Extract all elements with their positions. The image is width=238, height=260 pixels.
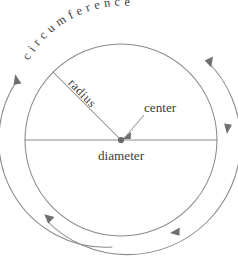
label-radius: radius — [65, 76, 99, 111]
center-leader-arrowhead — [122, 131, 131, 140]
center-point-dot — [118, 137, 124, 143]
circumference-arrow-bottom-right — [170, 228, 181, 237]
center-leader-line — [126, 115, 144, 136]
label-circumference-textpath: circumference — [19, 0, 134, 62]
label-radius-textpath: radius — [65, 76, 99, 111]
label-diameter: diameter — [98, 148, 145, 163]
label-circumference: circumference — [19, 0, 134, 62]
circle-diagram-svg: circumference radius center diameter — [0, 0, 238, 260]
circumference-arrow-upper-right — [203, 54, 216, 67]
circumference-arc-left — [0, 82, 112, 247]
circle-diagram-canvas: circumference radius center diameter — [0, 0, 238, 260]
circumference-arrow-right — [223, 124, 232, 135]
circumference-arrow-bottom-left — [44, 214, 55, 224]
label-center: center — [144, 100, 177, 115]
circumference-arrow-upper-left — [11, 73, 21, 85]
